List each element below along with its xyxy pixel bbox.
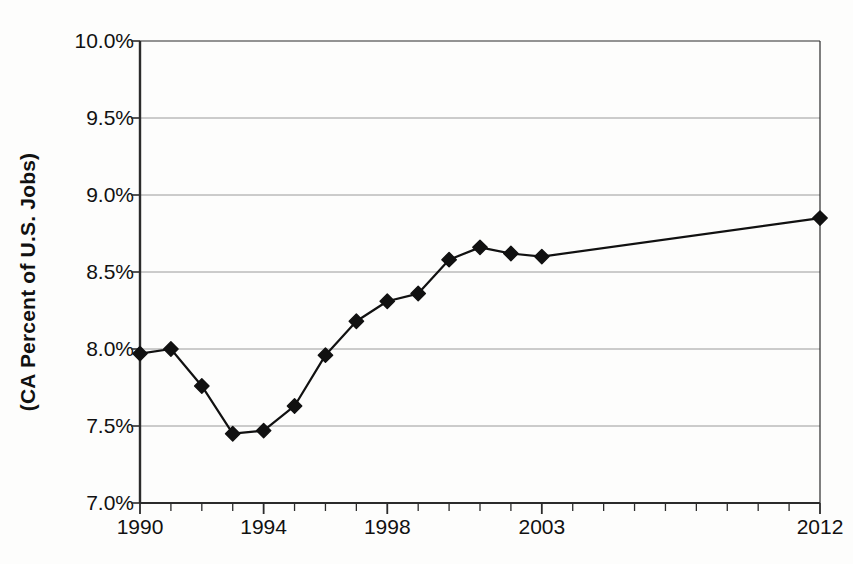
x-axis-tick-labels: 19901994199820032012	[0, 515, 853, 555]
x-axis-tick-label: 1998	[364, 515, 411, 539]
data-point-marker	[380, 294, 394, 308]
data-point-marker	[535, 249, 549, 263]
series-markers	[133, 211, 827, 441]
gridlines	[140, 118, 820, 426]
data-point-marker	[473, 240, 487, 254]
data-point-marker	[226, 427, 240, 441]
plot-area	[0, 0, 853, 564]
x-axis-tick-label: 1990	[117, 515, 164, 539]
x-axis-tick-label: 2012	[797, 515, 844, 539]
x-axis-tick-label: 1994	[240, 515, 287, 539]
data-point-marker	[813, 211, 827, 225]
line-chart: (CA Percent of U.S. Jobs) 10.0%9.5%9.0%8…	[0, 0, 853, 564]
y-axis-ticks	[131, 41, 140, 503]
x-axis-ticks	[140, 503, 820, 514]
x-axis-tick-label: 2003	[518, 515, 565, 539]
data-point-marker	[504, 246, 518, 260]
